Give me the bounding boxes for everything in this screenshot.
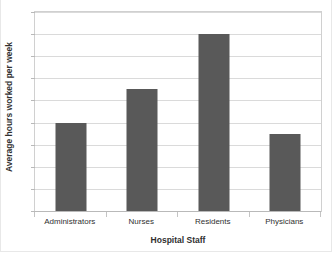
bar-slot <box>178 12 250 211</box>
chart-title <box>0 0 332 1</box>
x-axis-tick-label: Residents <box>177 217 249 227</box>
bar-chart-figure: Average hours worked per week 9080706050… <box>0 0 332 259</box>
x-axis-tick-label: Nurses <box>106 217 178 227</box>
bar[interactable] <box>270 134 301 211</box>
bar[interactable] <box>55 123 86 211</box>
bar-slot <box>250 12 322 211</box>
x-axis-title: Hospital Staff <box>34 235 322 245</box>
gridline <box>35 211 321 212</box>
x-axis-tick-label: Administrators <box>34 217 106 227</box>
bar[interactable] <box>198 34 229 211</box>
bars-container <box>35 12 321 211</box>
bar-slot <box>107 12 179 211</box>
bar[interactable] <box>127 89 158 211</box>
plot-area <box>34 11 322 212</box>
y-axis-title: Average hours worked per week <box>4 7 14 207</box>
bar-slot <box>35 12 107 211</box>
x-axis-separator-tick <box>320 212 321 217</box>
x-axis-tick-label: Physicians <box>249 217 321 227</box>
